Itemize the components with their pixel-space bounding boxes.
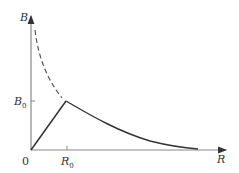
x-axis-label: R	[217, 154, 225, 165]
diagram-canvas	[0, 0, 239, 173]
b0-sub: 0	[22, 102, 26, 110]
b0-main: B	[14, 95, 22, 108]
inside-linear-curve	[31, 101, 66, 150]
outside-decay-curve	[66, 101, 198, 149]
extrapolated-decay-curve	[35, 30, 62, 98]
r0-sub: 0	[69, 162, 73, 170]
r0-tick-label: R0	[61, 156, 74, 170]
b0-tick-label: B0	[14, 96, 27, 110]
origin-label: 0	[22, 156, 29, 167]
y-axis-label: B	[20, 12, 28, 23]
